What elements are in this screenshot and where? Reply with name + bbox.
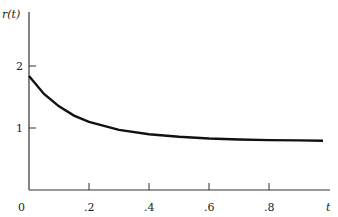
origin-label: 0	[18, 201, 25, 214]
y-tick-label: 2	[16, 60, 23, 73]
x-tick-label: .8	[264, 201, 275, 214]
y-tick-label: 1	[16, 122, 23, 135]
chart: .2.4.6.812 r(t) t 0	[0, 0, 338, 217]
x-tick-label: .6	[204, 201, 215, 214]
x-axis-label: t	[326, 201, 331, 214]
x-tick-label: .2	[84, 201, 95, 214]
ticks: .2.4.6.812	[16, 60, 275, 214]
y-axis-label: r(t)	[2, 8, 20, 21]
x-tick-label: .4	[144, 201, 155, 214]
data-curve	[29, 76, 323, 141]
